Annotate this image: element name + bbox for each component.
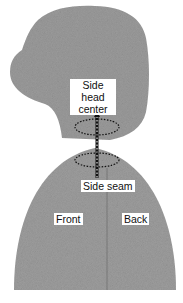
head-shape: [10, 6, 149, 140]
label-back: Back: [122, 213, 149, 225]
label-side-head-center: Side head center: [70, 79, 116, 115]
mannequin-diagram: [0, 0, 183, 303]
torso-shape: [14, 148, 176, 290]
label-line: center: [72, 103, 114, 115]
label-front: Front: [54, 213, 83, 225]
label-line: Side head: [72, 79, 114, 103]
label-side-seam: Side seam: [81, 180, 135, 192]
